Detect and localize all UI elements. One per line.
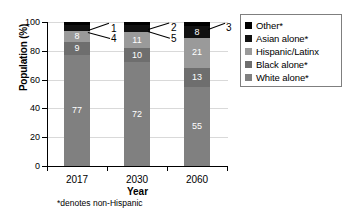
segment-value-2060-asian: 8 [194,28,199,37]
segment-2017-other [64,22,90,25]
legend-swatch-other-icon [245,22,252,29]
leader-line-2030-other [148,23,169,30]
y-tick-20 [42,137,47,138]
x-tick-start [47,167,48,171]
segment-value-2060-white: 55 [192,122,202,131]
leader-line-2030-asian [148,31,170,39]
segment-value-2030-hispanic: 11 [132,36,141,45]
segment-2060-hispanic: 21 [184,38,210,68]
bar-2017: 77 9 8 [64,22,90,166]
x-tick-1 [107,167,108,171]
stacked-bar-chart: Population (%) 100 80 60 40 20 0 2017 20… [0,0,348,216]
legend-swatch-black-icon [245,61,252,68]
legend-label-black: Black alone* [256,58,308,71]
legend-item-black: Black alone* [245,58,338,71]
segment-2017-black: 9 [64,42,90,55]
y-tick-80 [42,51,47,52]
x-tick-label-2060: 2060 [167,174,227,185]
segment-2030-other [124,22,150,25]
bar-2030: 72 10 11 [124,22,150,166]
legend-item-other: Other* [245,19,338,32]
x-axis-title: Year [47,186,228,197]
legend-label-other: Other* [256,19,283,32]
legend-item-white: White alone* [245,71,338,84]
segment-2060-other [184,22,210,26]
y-tick-label-20: 20 [12,132,40,142]
x-tick-label-2017: 2017 [47,174,107,185]
legend-label-white: White alone* [256,71,309,84]
segment-2017-white: 77 [64,55,90,166]
callout-2017-asian: 4 [111,33,117,44]
segment-value-2060-black: 13 [192,73,202,82]
segment-2030-white: 72 [124,62,150,166]
segment-value-2030-black: 10 [132,51,142,60]
callout-2060-other: 3 [226,22,232,33]
segment-2017-asian [64,25,90,31]
x-tick-label-2030: 2030 [107,174,167,185]
legend-label-hispanic: Hispanic/Latinx [256,45,319,58]
y-tick-label-60: 60 [12,75,40,85]
y-tick-label-0: 0 [12,161,40,171]
chart-footnote: *denotes non-Hispanic [57,198,143,208]
y-tick-40 [42,108,47,109]
segment-value-2060-hispanic: 21 [192,48,202,57]
y-tick-label-40: 40 [12,103,40,113]
bar-2060: 55 13 21 8 [184,22,210,166]
segment-2060-white: 55 [184,87,210,166]
segment-2060-black: 13 [184,68,210,87]
callout-2030-other: 2 [171,22,177,33]
y-axis-line [47,22,48,167]
callout-2030-asian: 5 [171,33,177,44]
segment-2060-asian: 8 [184,26,210,38]
legend-label-asian: Asian alone* [256,32,308,45]
legend-item-hispanic: Hispanic/Latinx [245,45,338,58]
segment-2030-black: 10 [124,48,150,62]
segment-2017-hispanic: 8 [64,31,90,43]
leader-line-2060-other [208,23,225,30]
y-tick-60 [42,80,47,81]
leader-line-2017-asian [88,32,110,39]
x-tick-2 [167,167,168,171]
x-axis-line [47,166,228,167]
legend-item-asian: Asian alone* [245,32,338,45]
chart-legend: Other* Asian alone* Hispanic/Latinx Blac… [240,14,342,87]
segment-value-2017-hispanic: 8 [74,32,79,41]
segment-2030-asian [124,25,150,32]
leader-line-2017-other [88,23,109,31]
y-tick-label-100: 100 [12,17,40,27]
segment-value-2030-white: 72 [132,110,142,119]
y-tick-label-80: 80 [12,46,40,56]
plot-area: 100 80 60 40 20 0 2017 2030 2060 77 [47,22,228,167]
segment-value-2017-black: 9 [74,44,79,53]
legend-swatch-hispanic-icon [245,48,252,55]
segment-value-2017-white: 77 [72,106,82,115]
x-tick-end [227,167,228,171]
segment-2030-hispanic: 11 [124,32,150,48]
legend-swatch-asian-icon [245,35,252,42]
y-tick-100 [42,22,47,23]
legend-swatch-white-icon [245,74,252,81]
